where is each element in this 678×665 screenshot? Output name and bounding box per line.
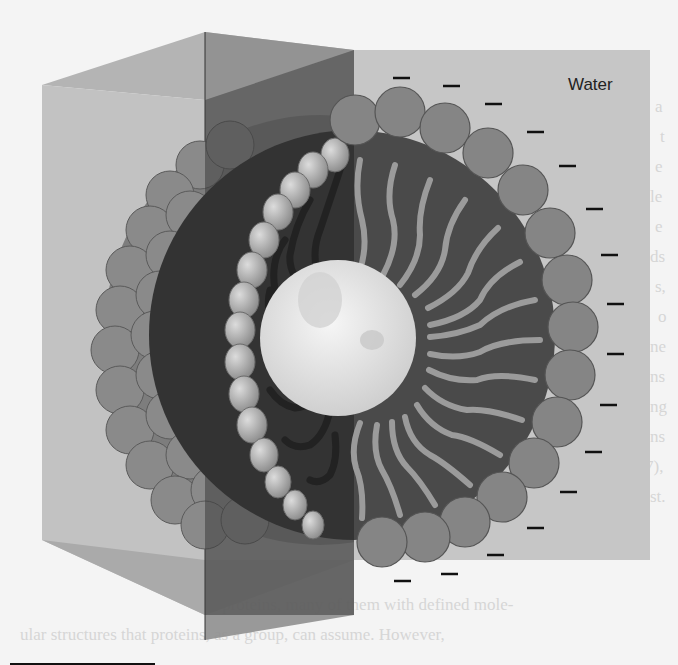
water-label: Water xyxy=(568,75,613,94)
micelle-diagram: Water xyxy=(0,0,678,665)
hydrophobic-core xyxy=(260,260,416,416)
